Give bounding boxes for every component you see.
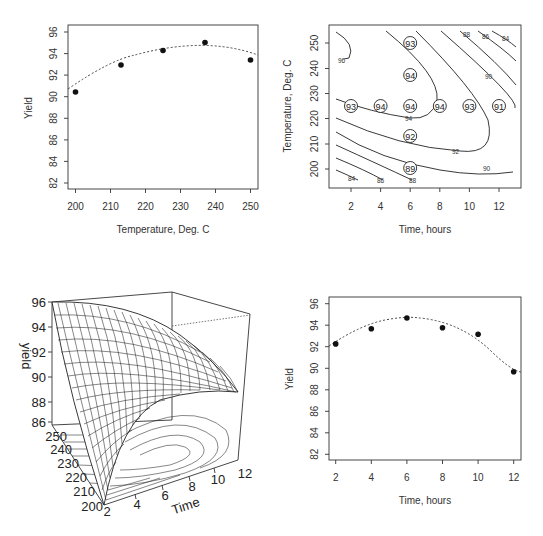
x-tick-label: 4	[369, 472, 375, 483]
y-tick-label: 92	[48, 69, 59, 81]
y-tick-label: 82	[309, 448, 320, 460]
x-axis: 200 210 220 230 240 250 Temperature, Deg…	[67, 189, 259, 235]
y-tick-label: 230	[309, 85, 320, 102]
x-tick-label: 250	[242, 201, 259, 212]
y-tick-label: 94	[309, 319, 320, 331]
x-tick-label: 6	[407, 201, 413, 212]
x-tick-label: 12	[493, 201, 505, 212]
panel-yield-vs-temperature: 96 94 92 90 88 86 84 82 Yield 200 210 22…	[23, 25, 259, 235]
x-tick-label: 210	[102, 201, 119, 212]
svg-text:88: 88	[409, 177, 417, 184]
svg-text:94: 94	[435, 102, 445, 112]
svg-text:94: 94	[405, 71, 415, 81]
y-tick-label: 82	[48, 177, 59, 189]
contour-lines: 96 94 92 90 90 88 86 84 88 86 84	[336, 31, 516, 184]
y-tick-label: 220	[65, 470, 87, 485]
y-tick-label: 240	[309, 60, 320, 77]
z-tick-label: 86	[32, 415, 46, 430]
y-tick-label: 88	[48, 112, 59, 124]
y-tick-label: 88	[309, 384, 320, 396]
x-tick-label: 10	[211, 472, 225, 487]
svg-text:93: 93	[464, 102, 474, 112]
x-tick-label: 12	[238, 466, 252, 481]
x-tick-label: 220	[137, 201, 154, 212]
x-axis-label: Time, hours	[399, 495, 451, 506]
panel-contour-time-temperature: 200 210 220 230 240 250 Temperature, Deg…	[282, 25, 521, 235]
x-tick-label: 8	[188, 479, 195, 494]
x-tick-label: 2	[333, 472, 339, 483]
svg-text:93: 93	[346, 102, 356, 112]
x-axis-label: Time, hours	[399, 224, 451, 235]
x-tick-label: 8	[437, 201, 443, 212]
y-tick-label: 250	[309, 34, 320, 51]
svg-text:84: 84	[502, 35, 510, 42]
y-tick-label: 230	[57, 456, 79, 471]
y-tick-label: 200	[309, 160, 320, 177]
y-tick-label: 96	[48, 26, 59, 38]
z-tick-label: 90	[32, 370, 46, 385]
y-axis-label: Yield	[23, 97, 34, 119]
y-axis-label: Temperature, Deg. C	[282, 60, 293, 153]
x-tick-label: 10	[464, 201, 476, 212]
x-tick-label: 200	[67, 201, 84, 212]
y-tick-label: 84	[309, 427, 320, 439]
data-points	[73, 40, 254, 95]
svg-text:96: 96	[338, 57, 346, 64]
x-tick-label: 4	[378, 201, 384, 212]
x-tick-label: 6	[404, 472, 410, 483]
x-axis: 2 4 6 8 10 12 Time, hours	[348, 188, 505, 235]
svg-text:84: 84	[348, 175, 356, 182]
svg-text:90: 90	[485, 73, 493, 80]
y-tick-label: 240	[50, 442, 72, 457]
plot-frame	[329, 297, 521, 460]
data-points	[333, 315, 517, 374]
z-axis: 96 94 92 90 88 86 yield	[19, 295, 52, 430]
y-tick-label: 220	[309, 110, 320, 127]
svg-text:92: 92	[452, 148, 460, 155]
z-tick-label: 96	[32, 295, 46, 310]
svg-text:94: 94	[405, 115, 413, 122]
y-tick-label: 86	[309, 405, 320, 417]
y-axis-label: Yield	[284, 368, 295, 390]
x-axis-label: Temperature, Deg. C	[117, 224, 210, 235]
svg-text:94: 94	[405, 102, 415, 112]
y-tick-label: 210	[73, 484, 95, 499]
x-tick-label: 2	[348, 201, 354, 212]
svg-text:89: 89	[405, 164, 415, 174]
z-tick-label: 94	[32, 320, 46, 335]
x-tick-label: 8	[440, 472, 446, 483]
y-tick-label: 200	[81, 499, 103, 514]
y-tick-label: 90	[48, 91, 59, 103]
x-tick-label: 230	[172, 201, 189, 212]
svg-text:94: 94	[376, 102, 386, 112]
panel-3d-response-surface: 96 94 92 90 88 86 yield 250 240 230 220 …	[19, 292, 252, 519]
x-axis-label: Time	[170, 494, 202, 517]
x-tick-label: 10	[473, 472, 485, 483]
z-tick-label: 88	[32, 395, 46, 410]
x-axis-3d: 2 4 6 8 10 12 Time	[103, 466, 252, 519]
y-axis: 96 94 92 90 88 86 84 82 Yield	[23, 26, 68, 189]
x-axis: 2 4 6 8 10 12 Time, hours	[333, 460, 520, 506]
svg-text:93: 93	[405, 39, 415, 49]
svg-text:90: 90	[483, 165, 491, 172]
x-tick-label: 12	[508, 472, 520, 483]
panel-yield-vs-time: 96 94 92 90 88 86 84 82 Yield 2 4 6 8 10…	[284, 297, 521, 506]
y-tick-label: 94	[48, 48, 59, 60]
x-tick-label: 6	[161, 488, 168, 503]
x-tick-label: 240	[207, 201, 224, 212]
svg-text:91: 91	[494, 102, 504, 112]
design-points: 93 94 93 94 94 94 93 91 92 89	[345, 37, 506, 175]
y-tick-label: 90	[309, 362, 320, 374]
y-tick-label: 86	[48, 134, 59, 146]
y-axis: 200 210 220 230 240 250 Temperature, Deg…	[282, 34, 329, 177]
y-tick-label: 92	[309, 341, 320, 353]
y-axis: 96 94 92 90 88 86 84 82 Yield	[284, 298, 329, 460]
x-tick-label: 2	[103, 504, 110, 519]
y-tick-label: 96	[309, 298, 320, 310]
svg-text:92: 92	[405, 132, 415, 142]
svg-text:86: 86	[377, 177, 385, 184]
svg-text:88: 88	[463, 31, 471, 38]
y-tick-label: 84	[48, 155, 59, 167]
y-tick-label: 210	[309, 135, 320, 152]
z-axis-label: yield	[19, 343, 34, 370]
